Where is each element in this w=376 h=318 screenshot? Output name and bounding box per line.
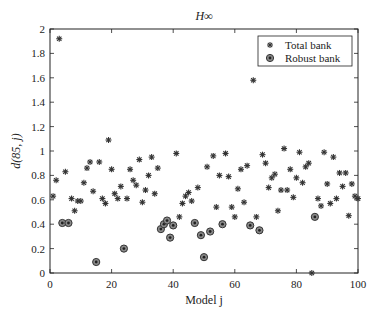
data-point bbox=[343, 170, 349, 176]
x-tick-label: 100 bbox=[350, 278, 367, 290]
data-point bbox=[87, 159, 93, 165]
data-point bbox=[84, 165, 90, 171]
data-point bbox=[133, 182, 139, 188]
data-point bbox=[176, 214, 182, 220]
data-point bbox=[120, 245, 127, 252]
y-tick-label: 1.6 bbox=[31, 72, 45, 84]
data-point bbox=[72, 208, 78, 214]
data-point bbox=[315, 196, 321, 202]
data-point bbox=[250, 77, 256, 83]
data-point bbox=[340, 183, 346, 189]
data-point bbox=[290, 194, 296, 200]
data-point bbox=[309, 270, 315, 276]
data-point bbox=[65, 219, 72, 226]
data-point bbox=[102, 200, 108, 206]
data-point bbox=[281, 146, 287, 152]
x-axis-ticks: 020406080100 bbox=[47, 29, 367, 290]
data-point bbox=[210, 153, 216, 159]
data-point bbox=[355, 196, 361, 202]
y-tick-label: 0.6 bbox=[31, 194, 45, 206]
data-point bbox=[127, 166, 133, 172]
data-point bbox=[170, 222, 177, 229]
data-point bbox=[244, 163, 250, 169]
data-point bbox=[115, 196, 121, 202]
data-point bbox=[136, 157, 142, 163]
data-point bbox=[306, 160, 312, 166]
data-point bbox=[318, 203, 324, 209]
data-point bbox=[204, 164, 210, 170]
data-point bbox=[62, 169, 68, 175]
data-point bbox=[266, 185, 272, 191]
data-points bbox=[50, 36, 361, 276]
data-point bbox=[219, 221, 226, 228]
data-point bbox=[195, 185, 201, 191]
data-point bbox=[293, 175, 299, 181]
data-point bbox=[321, 149, 327, 155]
data-point bbox=[191, 219, 198, 226]
data-point bbox=[163, 217, 170, 224]
legend-asterisk-icon bbox=[267, 42, 273, 48]
data-point bbox=[229, 204, 235, 210]
data-point bbox=[300, 180, 306, 186]
legend: Total bank Robust bank bbox=[258, 36, 352, 66]
data-point bbox=[109, 166, 115, 172]
series-robust-bank bbox=[59, 213, 319, 265]
legend-label-total-bank: Total bank bbox=[285, 39, 332, 51]
data-point bbox=[263, 160, 269, 166]
data-point bbox=[275, 208, 281, 214]
x-tick-label: 60 bbox=[229, 278, 241, 290]
x-tick-label: 80 bbox=[291, 278, 303, 290]
x-axis-label: Model j bbox=[185, 293, 223, 307]
data-point bbox=[69, 196, 75, 202]
data-point bbox=[118, 183, 124, 189]
legend-circled-dot-icon bbox=[266, 54, 273, 61]
data-point bbox=[253, 214, 259, 220]
data-point bbox=[241, 199, 247, 205]
data-point bbox=[207, 228, 214, 235]
data-point bbox=[189, 198, 195, 204]
data-point bbox=[330, 154, 336, 160]
data-point bbox=[235, 186, 241, 192]
data-point bbox=[112, 191, 118, 197]
data-point bbox=[337, 170, 343, 176]
y-tick-label: 0.4 bbox=[31, 218, 45, 230]
x-tick-label: 40 bbox=[168, 278, 180, 290]
data-point bbox=[155, 165, 161, 171]
data-point bbox=[333, 196, 339, 202]
data-point bbox=[173, 150, 179, 156]
data-point bbox=[179, 200, 185, 206]
data-point bbox=[247, 222, 254, 229]
data-point bbox=[197, 232, 204, 239]
data-point bbox=[93, 258, 100, 265]
data-point bbox=[278, 187, 284, 193]
data-point bbox=[78, 198, 84, 204]
x-tick-label: 20 bbox=[106, 278, 118, 290]
y-tick-label: 0.2 bbox=[31, 243, 45, 255]
data-point bbox=[200, 254, 207, 261]
data-point bbox=[139, 199, 145, 205]
chart-title: H∞ bbox=[194, 9, 213, 23]
data-point bbox=[146, 172, 152, 178]
series-total-bank bbox=[50, 36, 361, 276]
data-point bbox=[226, 174, 232, 180]
data-point bbox=[186, 189, 192, 195]
y-axis-label: d(85, j) bbox=[9, 133, 23, 168]
data-point bbox=[99, 196, 105, 202]
data-point bbox=[272, 171, 278, 177]
y-tick-label: 1 bbox=[40, 145, 46, 157]
data-point bbox=[167, 234, 174, 241]
y-tick-label: 2 bbox=[40, 23, 46, 35]
scatter-chart: H∞ 020406080100 00.20.40.60.811.21.41.61… bbox=[0, 0, 376, 318]
y-tick-label: 1.8 bbox=[31, 47, 45, 59]
data-point bbox=[142, 187, 148, 193]
data-point bbox=[96, 159, 102, 165]
y-tick-label: 0.8 bbox=[31, 169, 45, 181]
data-point bbox=[130, 177, 136, 183]
data-point bbox=[327, 200, 333, 206]
data-point bbox=[346, 213, 352, 219]
data-point bbox=[50, 193, 56, 199]
data-point bbox=[238, 166, 244, 172]
y-tick-label: 0 bbox=[40, 267, 46, 279]
data-point bbox=[90, 188, 96, 194]
x-tick-label: 0 bbox=[47, 278, 53, 290]
